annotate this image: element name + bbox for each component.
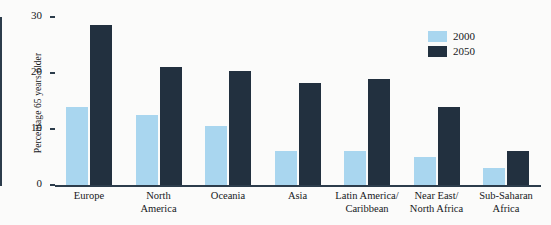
legend-swatch-2050-icon [428,46,447,57]
y-axis-title: Percentage 65 years older [33,13,43,193]
bar-2050-0 [90,25,112,185]
category-label-line: Latin America/ [330,190,404,203]
bar-2000-1 [136,115,158,185]
category-label-line: Africa [469,203,543,216]
category-label-line: Sub-Saharan [469,190,543,203]
y-tick-label-10: 10 [14,121,42,133]
category-label-0: Europe [52,190,126,203]
y-tick-30 [50,16,55,17]
legend-swatch-2000-icon [428,31,447,42]
legend: 2000 2050 [428,30,475,60]
y-axis-line [0,17,2,186]
category-label-line: Asia [261,190,335,203]
category-label-line: North Africa [400,203,474,216]
category-label-5: Near East/North Africa [400,190,474,215]
bar-2050-5 [438,107,460,185]
y-tick-label-20: 20 [14,65,42,77]
category-label-line: Near East/ [400,190,474,203]
x-axis-line [55,185,541,187]
bar-2000-3 [275,151,297,185]
category-label-line: America [122,203,196,216]
bar-2000-2 [205,126,227,185]
category-label-line: North [122,190,196,203]
category-label-4: Latin America/Caribbean [330,190,404,215]
bar-chart: Percentage 65 years older 3020100 Europe… [0,0,551,225]
bar-2050-3 [299,83,321,185]
bar-2050-1 [160,67,182,185]
bar-2000-5 [414,157,436,185]
category-label-line: Oceania [191,190,265,203]
bar-2000-4 [344,151,366,185]
y-tick-20 [50,72,55,73]
y-tick-label-30: 30 [14,9,42,21]
legend-label-2000: 2000 [453,30,475,42]
category-label-line: Europe [52,190,126,203]
category-label-3: Asia [261,190,335,203]
category-label-line: Caribbean [330,203,404,216]
category-label-2: Oceania [191,190,265,203]
bar-2000-6 [483,168,505,185]
legend-label-2050: 2050 [453,45,475,57]
bar-2050-6 [507,151,529,185]
legend-item-2050[interactable]: 2050 [428,45,475,57]
category-label-6: Sub-SaharanAfrica [469,190,543,215]
bar-2050-2 [229,71,251,185]
y-tick-0 [50,184,55,185]
legend-item-2000[interactable]: 2000 [428,30,475,42]
bar-2000-0 [66,107,88,185]
y-tick-label-0: 0 [14,177,42,189]
bar-2050-4 [368,79,390,185]
category-label-1: NorthAmerica [122,190,196,215]
y-tick-10 [50,128,55,129]
